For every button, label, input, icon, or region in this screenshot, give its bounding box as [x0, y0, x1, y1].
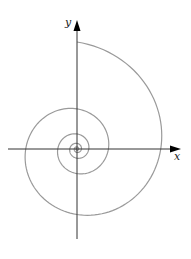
logarithmic-spiral-curve	[25, 42, 162, 215]
y-axis-label: y	[64, 16, 72, 29]
x-axis-label: x	[174, 150, 181, 163]
spiral-diagram: x y	[0, 0, 191, 259]
y-axis-arrowhead-icon	[74, 20, 81, 31]
